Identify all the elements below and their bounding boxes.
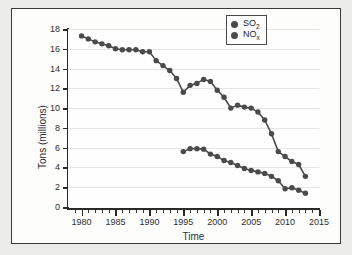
data-point [153, 58, 158, 63]
data-point [221, 95, 226, 100]
data-point [160, 63, 165, 68]
data-point [194, 146, 199, 151]
x-tick-minor [156, 210, 157, 213]
data-point [201, 146, 206, 151]
x-tick-minor [177, 210, 178, 213]
y-tick-label: 18 [50, 25, 60, 34]
data-point [276, 149, 281, 154]
x-tick-minor [129, 210, 130, 213]
data-point [140, 49, 145, 54]
y-tick-label: 8 [55, 123, 60, 132]
data-point [133, 47, 138, 52]
data-point [228, 160, 233, 165]
x-tick-minor [197, 210, 198, 213]
y-tick-label: 12 [50, 84, 60, 93]
data-point [201, 77, 206, 82]
x-axis-title: Time [68, 231, 319, 242]
plot-area: 024681012141618 [68, 29, 319, 207]
data-point [255, 169, 260, 174]
data-point [215, 154, 220, 159]
data-point [269, 174, 274, 179]
data-point [235, 102, 240, 107]
y-axis-title: Tons (millions) [37, 105, 48, 169]
data-point [235, 163, 240, 168]
x-tick-major [115, 210, 117, 216]
data-point [303, 190, 308, 195]
x-tick-minor [265, 210, 266, 213]
data-point [79, 33, 84, 38]
legend-marker-icon [231, 21, 238, 28]
data-point [242, 166, 247, 171]
data-point [269, 131, 274, 136]
data-point [92, 39, 97, 44]
data-point [228, 105, 233, 110]
chart-page: 024681012141618 198019851990199520002005… [0, 0, 352, 255]
y-tick [63, 207, 68, 209]
x-tick-label: 1985 [105, 218, 125, 227]
data-point [289, 185, 294, 190]
data-point [99, 41, 104, 46]
data-point [194, 81, 199, 86]
x-tick-minor [170, 210, 171, 213]
x-tick-minor [292, 210, 293, 213]
x-tick-minor [102, 210, 103, 213]
y-tick-label: 10 [50, 104, 60, 113]
x-tick-major [319, 210, 321, 216]
data-point [181, 149, 186, 154]
data-point [296, 162, 301, 167]
x-tick-major [149, 210, 151, 216]
series-line-so2 [82, 36, 306, 176]
legend-marker-icon [231, 32, 238, 39]
x-tick-minor [258, 210, 259, 213]
data-point [181, 90, 186, 95]
data-point [296, 187, 301, 192]
x-tick-minor [88, 210, 89, 213]
x-tick-minor [305, 210, 306, 213]
data-point [208, 151, 213, 156]
x-tick-minor [143, 210, 144, 213]
y-tick-label: 2 [55, 183, 60, 192]
x-tick-label: 2000 [207, 218, 227, 227]
x-tick-major [82, 210, 84, 216]
x-tick-major [251, 210, 253, 216]
chart-frame: 024681012141618 198019851990199520002005… [11, 8, 341, 244]
x-tick-minor [210, 210, 211, 213]
y-tick-label: 6 [55, 143, 60, 152]
chart-legend[interactable]: SO2 NOx [226, 15, 267, 45]
data-point [276, 178, 281, 183]
x-tick-minor [272, 210, 273, 213]
x-tick-minor [136, 210, 137, 213]
data-point [255, 109, 260, 114]
data-point [120, 47, 125, 52]
data-point [187, 83, 192, 88]
data-point [248, 105, 253, 110]
data-point [208, 79, 213, 84]
legend-item-nox[interactable]: NOx [231, 30, 260, 41]
x-tick-minor [299, 210, 300, 213]
x-tick-label: 2010 [275, 218, 295, 227]
x-tick-minor [312, 210, 313, 213]
x-tick-minor [122, 210, 123, 213]
x-tick-major [183, 210, 185, 216]
data-point [282, 186, 287, 191]
x-tick-major [285, 210, 287, 216]
data-point [147, 49, 152, 54]
x-tick-minor [75, 210, 76, 213]
data-point [242, 104, 247, 109]
y-tick-label: 16 [50, 44, 60, 53]
x-tick-minor [278, 210, 279, 213]
y-tick-label: 4 [55, 163, 60, 172]
x-tick-minor [204, 210, 205, 213]
data-point [282, 154, 287, 159]
x-tick-minor [109, 210, 110, 213]
x-tick-label: 1980 [72, 218, 92, 227]
data-point [113, 46, 118, 51]
y-tick-label: 0 [55, 203, 60, 212]
x-tick-label: 1990 [139, 218, 159, 227]
data-point [289, 159, 294, 164]
data-point [262, 171, 267, 176]
x-tick-minor [231, 210, 232, 213]
data-point [106, 43, 111, 48]
y-tick-label: 14 [50, 64, 60, 73]
data-point [174, 76, 179, 81]
